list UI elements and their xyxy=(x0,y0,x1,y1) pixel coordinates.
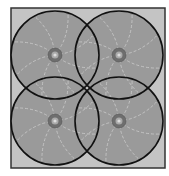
node-icon xyxy=(112,114,126,128)
node-icon xyxy=(48,48,62,62)
coverage-diagram xyxy=(0,0,169,176)
node-icon xyxy=(48,114,62,128)
node-icon xyxy=(112,48,126,62)
